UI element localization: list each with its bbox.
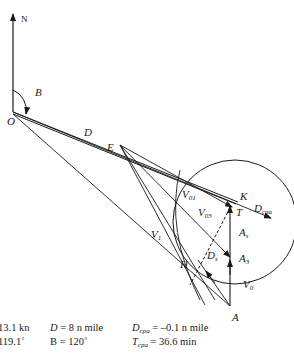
origin-label: O	[7, 115, 15, 127]
bearing-label: B	[35, 86, 42, 98]
v03-label: V03	[198, 206, 212, 220]
origin-lines	[13, 112, 271, 306]
relative-motion-diagram: N B O D E V01 V03 V1 K T Dcpa A	[0, 0, 294, 354]
v01-label: V01	[182, 188, 196, 202]
point-t-label: T	[236, 206, 243, 218]
point-e-label: E	[106, 141, 114, 153]
v0-label: V0	[243, 278, 254, 292]
own-course-value: 119.1˚	[0, 335, 25, 349]
own-speed-value: 13.1 kn	[0, 321, 30, 335]
point-h-label: H	[179, 258, 189, 270]
dcpa-label: Dcpa	[253, 202, 273, 216]
v1-label: V1	[151, 228, 161, 242]
distance-value: D = 8 n mile	[50, 321, 103, 335]
a3-label: A3	[238, 252, 250, 266]
as-label: As	[238, 226, 249, 240]
north-label: N	[21, 14, 28, 24]
distance-label: D	[83, 126, 92, 138]
point-a-label: A	[231, 311, 239, 323]
tcpa-value: Tcpa = 36.6 min	[132, 335, 196, 352]
bearing-value: B = 120˚	[50, 335, 87, 349]
safety-circle	[173, 160, 294, 284]
bearing-arc-icon	[13, 90, 26, 114]
point-k-label: K	[239, 190, 248, 202]
ds-label: Ds	[206, 249, 218, 263]
